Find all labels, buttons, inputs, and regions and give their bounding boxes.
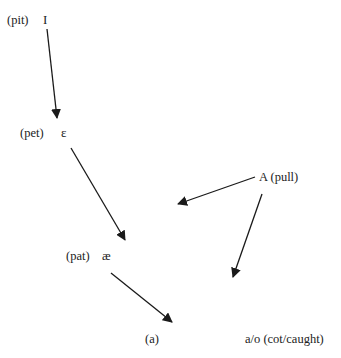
arrow-pit-to-pet xyxy=(47,29,57,118)
arrows-layer xyxy=(0,0,341,358)
arrow-pat-to-a xyxy=(111,273,172,322)
arrow-pull-to-ao xyxy=(233,194,262,277)
arrow-pet-to-pat xyxy=(71,148,125,240)
arrow-pull-left xyxy=(178,177,255,204)
